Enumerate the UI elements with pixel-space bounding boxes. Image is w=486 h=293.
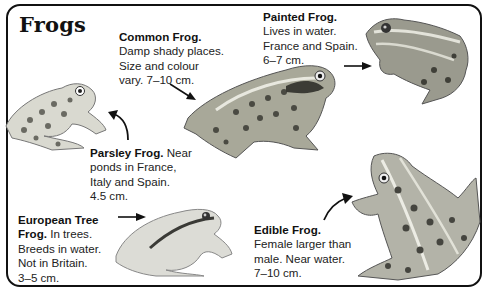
arrow-parsley-frog [104, 108, 134, 142]
caption-line: 6–7 cm. [263, 53, 304, 66]
caption-line: ponds in France, [90, 160, 176, 173]
caption-line: 4.5 cm. [90, 189, 128, 202]
arrow-tree-frog [116, 211, 148, 223]
caption-line: Size and colour [119, 59, 199, 72]
page-title: Frogs [19, 12, 86, 37]
caption-line: Female larger than [254, 237, 351, 250]
caption-line: vary. 7–10 cm. [119, 73, 194, 86]
caption-line: Not in Britain. [18, 256, 88, 269]
caption-line: Lives in water. [263, 24, 336, 37]
caption-line: male. Near water. [254, 252, 345, 265]
caption-painted-frog: Painted Frog. Lives in water. France and… [263, 10, 358, 68]
edible-frog-illustration [348, 150, 482, 286]
caption-line: 3–5 cm. [18, 271, 59, 284]
caption-line: Near [167, 146, 192, 159]
caption-line: Breeds in water. [18, 242, 101, 255]
caption-line: 7–10 cm. [254, 266, 302, 279]
species-name: Parsley Frog. [90, 146, 163, 159]
caption-common-frog: Common Frog. Damp shady places. Size and… [119, 30, 224, 88]
arrow-edible-frog [320, 192, 354, 222]
painted-frog-illustration [364, 10, 476, 106]
caption-european-tree-frog: European Tree Frog. In trees. Breeds in … [18, 213, 101, 285]
caption-parsley-frog: Parsley Frog. Near ponds in France, Ital… [90, 146, 192, 204]
species-name: Edible Frog. [254, 223, 321, 236]
species-name: Common Frog. [119, 30, 201, 43]
caption-line: France and Spain. [263, 39, 358, 52]
caption-line: In trees. [50, 227, 92, 240]
species-name: European Tree [18, 213, 99, 226]
caption-line: Damp shady places. [119, 44, 224, 57]
species-name: Painted Frog. [263, 10, 337, 23]
species-name-continued: Frog. [18, 227, 47, 240]
caption-edible-frog: Edible Frog. Female larger than male. Ne… [254, 223, 351, 281]
caption-line: Italy and Spain. [90, 175, 170, 188]
